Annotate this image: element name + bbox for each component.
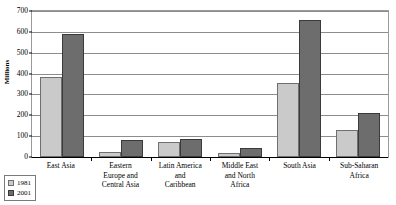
x-axis-label: Sub-SaharanAfrica [329,161,389,190]
x-axis-label-line: Sub-Saharan [330,161,388,171]
bar-group [210,11,269,157]
bar-2001 [62,34,84,157]
y-tick-label: 300 [0,91,28,99]
x-axis-label-line: South Asia [271,161,329,171]
y-tick-label: 0 [0,153,28,161]
y-tick-label: 700 [0,7,28,15]
y-tick-label: 400 [0,70,28,78]
x-axis-label-line: Africa [330,171,388,181]
y-tick-label: 100 [0,132,28,140]
bar-group [151,11,210,157]
x-axis-label-line: East Asia [32,161,90,171]
plot-area: 0100200300400500600700 [31,10,389,158]
bar-group [32,11,91,157]
legend-label-2001: 2001 [17,190,31,197]
legend-swatch-icon-2001 [8,190,14,196]
bar-2001 [121,140,143,157]
x-axis-label-line: Central Asia [92,180,150,190]
bar-1981 [99,152,121,157]
x-axis-label-line: Caribbean [151,180,209,190]
x-axis-label-line: Africa [211,180,269,190]
bar-1981 [158,142,180,157]
bar-2001 [240,148,262,157]
bar-2001 [358,113,380,157]
bar-1981 [218,153,240,157]
bar-chart: Millions 0100200300400500600700 East Asi… [0,0,396,205]
x-axis-label: Middle Eastand NorthAfrica [210,161,270,190]
legend-item-2001: 2001 [8,188,31,198]
x-axis-label-line: and North [211,171,269,181]
x-axis-labels: East AsiaEasternEurope andCentral AsiaLa… [31,161,389,190]
legend-label-1981: 1981 [17,180,31,187]
x-axis-label-line: Europe and [92,171,150,181]
y-tick-label: 600 [0,28,28,36]
bar-2001 [299,20,321,157]
x-axis-label: South Asia [270,161,330,190]
bar-1981 [336,130,358,157]
legend-item-1981: 1981 [8,178,31,188]
x-axis-label-line: Eastern [92,161,150,171]
x-axis-label: East Asia [31,161,91,190]
x-axis-label: EasternEurope andCentral Asia [91,161,151,190]
chart-legend: 1981 2001 [4,175,36,201]
bar-group [269,11,328,157]
legend-swatch-icon-1981 [8,180,14,186]
y-tick-label: 200 [0,112,28,120]
x-axis-label-line: and [151,171,209,181]
x-axis-label-line: Middle East [211,161,269,171]
bar-group [329,11,388,157]
bar-1981 [40,77,62,157]
bar-2001 [180,139,202,157]
x-axis-label: Latin AmericaandCaribbean [150,161,210,190]
bar-group [91,11,150,157]
bar-1981 [277,83,299,157]
x-axis-label-line: Latin America [151,161,209,171]
bar-groups [32,11,388,157]
y-tick-label: 500 [0,49,28,57]
